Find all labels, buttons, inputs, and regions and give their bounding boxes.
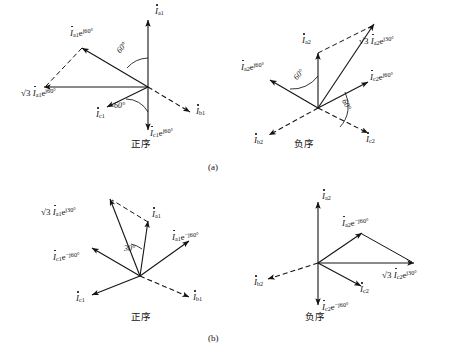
closure-b-neg-1: [362, 234, 412, 262]
phasor-vector-canvas: [0, 0, 465, 356]
vector-i-b1-b: [140, 276, 189, 297]
label-sqrt3-i-a2-e-j30: √3 Ia2ej30°: [358, 36, 394, 46]
angle-arc-a-pos-upper: [127, 58, 148, 68]
vector-i-b2: [269, 108, 318, 135]
figure-letter-b: (b): [208, 333, 219, 343]
label-i-b1-b: Ib1: [193, 293, 202, 302]
label-sqrt3-i-a1-e-j60: √3 Ia1ej60°: [20, 88, 56, 98]
label-i-a2-e-mj60: Ia2e−j60°: [342, 218, 369, 228]
panel-b-positive-vectors: [92, 199, 189, 297]
label-i-a2-e-j60: Ia2ej60°: [241, 62, 264, 72]
caption-positive-sequence-b: 正序: [131, 309, 151, 323]
label-i-a1-e-mj60: Ia1e−j60°: [172, 232, 199, 242]
vector-i-a2-e-mj60: [318, 233, 362, 263]
vector-i-c2-b: [318, 263, 361, 286]
vector-i-a1-e-mj60: [140, 241, 189, 276]
label-i-a1-b: Ia1: [152, 210, 161, 219]
vector-sqrt3-i-a1-e-j30: [110, 199, 140, 276]
phasor-figure: Ia1 Ib1 Ic1 Ia1ej60° Ic1ej60° √3 Ia1ej60…: [0, 0, 465, 356]
label-i-a1-e-j60: Ia1ej60°: [70, 28, 93, 38]
label-sqrt3-i-a1-e-j30: √3 Ia1ej30°: [40, 207, 76, 217]
caption-negative-sequence-a: 负序: [294, 136, 314, 150]
angle-label-a-pos-lower: 60°: [114, 101, 125, 110]
vector-i-a1-e-j60: [82, 48, 148, 87]
label-i-b2: Ib2: [254, 136, 263, 145]
panel-b-negative-vectors: [268, 202, 414, 305]
label-i-a1: Ia1: [155, 7, 164, 16]
angle-label-b-pos: 30°: [124, 244, 135, 253]
angle-arc-a-pos-lower: [126, 99, 148, 112]
vector-i-a2-e-j60: [270, 80, 318, 108]
vector-i-b2-b: [268, 263, 318, 279]
label-i-c1-e-mj60: Ic1e−j60°: [53, 252, 80, 262]
label-sqrt3-i-c2-e-j30: √3 Ic2ej30°: [381, 270, 417, 280]
label-i-a2: Ia2: [302, 36, 311, 45]
closure-a-pos-1: [46, 48, 82, 86]
label-i-c2: Ic2: [366, 135, 375, 144]
label-i-b1: Ib1: [196, 107, 205, 116]
label-i-c1: Ic1: [96, 110, 105, 119]
label-i-c1-b: Ic1: [76, 294, 85, 303]
label-i-c1-e-j60: Ic1ej60°: [150, 128, 173, 138]
label-i-b2-b: Ib2: [254, 278, 263, 287]
caption-negative-sequence-b: 负序: [305, 309, 325, 323]
vector-i-c2: [318, 108, 368, 133]
caption-positive-sequence-a: 正序: [131, 136, 151, 150]
label-i-c2-b: Ic2: [360, 285, 369, 294]
label-i-a2-b: Ia2: [322, 192, 331, 201]
vector-i-b1: [148, 87, 190, 112]
vector-i-c1-b: [92, 276, 140, 295]
label-i-c2-e-j60: Ic2ej60°: [370, 72, 393, 82]
label-i-c2-e-mj60: Ic2e−j60°: [322, 302, 349, 312]
figure-letter-a: (a): [208, 162, 218, 172]
panel-a-positive-vectors: [44, 20, 190, 130]
